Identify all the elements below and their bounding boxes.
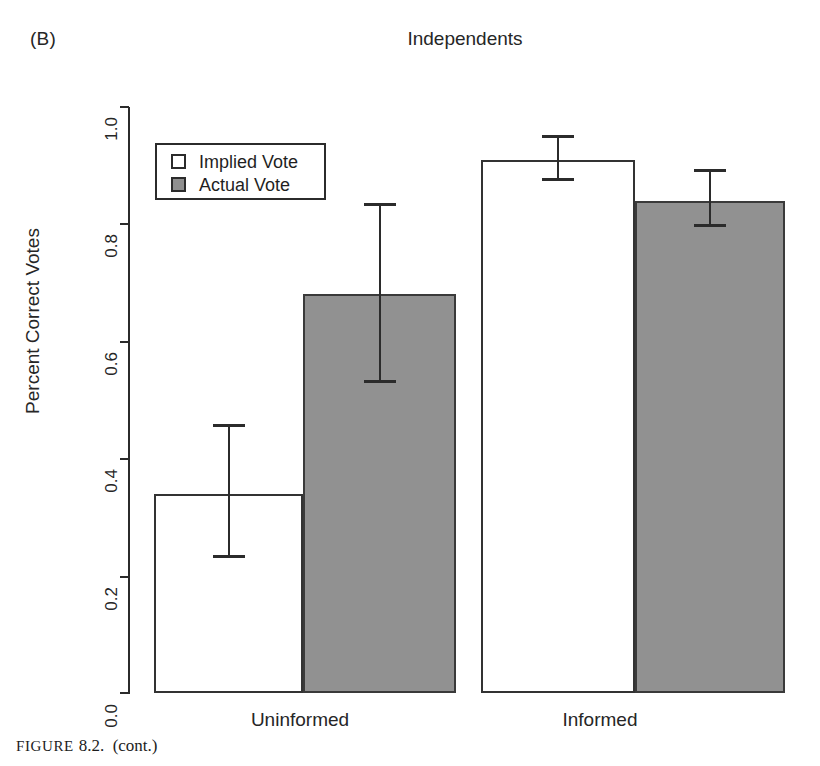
y-tick-0.2: [120, 576, 129, 578]
chart-title: Independents: [330, 28, 600, 50]
legend-swatch-gray-square-icon: [171, 177, 186, 192]
errorbar-informed-actual-vote: [694, 169, 726, 227]
legend-item-implied-vote: Implied Vote: [171, 150, 324, 173]
y-tick-1.0: [120, 106, 129, 108]
panel-label: (B): [30, 28, 56, 50]
bar-informed-actual-vote: [635, 201, 785, 693]
y-tick-label-0.8: 0.8: [102, 234, 122, 258]
errorbar-uninformed-implied-vote: [213, 424, 245, 558]
y-axis-line: [128, 107, 130, 694]
caption-figure-number: 8.2.: [79, 736, 105, 755]
caption-figure-word: FIGURE: [16, 738, 74, 754]
caption-continued: (cont.): [113, 736, 158, 755]
y-tick-label-0.2: 0.2: [102, 587, 122, 611]
y-tick-label-0.6: 0.6: [102, 352, 122, 376]
x-group-label-informed: Informed: [505, 709, 695, 731]
y-tick-0.4: [120, 458, 129, 460]
y-axis-title: Percent Correct Votes: [22, 141, 44, 501]
y-tick-0.8: [120, 223, 129, 225]
y-tick-label-0.4: 0.4: [102, 469, 122, 493]
legend-label-actual-vote: Actual Vote: [199, 176, 290, 194]
legend-item-actual-vote: Actual Vote: [171, 173, 324, 196]
figure-caption: FIGURE 8.2. (cont.): [16, 736, 157, 756]
legend-swatch-white-square-icon: [171, 154, 186, 169]
errorbar-uninformed-actual-vote: [364, 203, 396, 383]
bar-informed-implied-vote: [481, 160, 635, 693]
legend: Implied Vote Actual Vote: [155, 143, 326, 200]
legend-label-implied-vote: Implied Vote: [199, 153, 298, 171]
errorbar-informed-implied-vote: [542, 135, 574, 181]
x-group-label-uninformed: Uninformed: [200, 709, 400, 731]
y-tick-0.6: [120, 341, 129, 343]
y-tick-label-0.0: 0.0: [102, 704, 122, 728]
y-tick-label-1.0: 1.0: [102, 117, 122, 141]
y-tick-0.0: [120, 692, 129, 694]
figure-panel-b: (B) Independents 1.0 0.8 0.6 0.4 0.2 0.0…: [0, 0, 820, 766]
